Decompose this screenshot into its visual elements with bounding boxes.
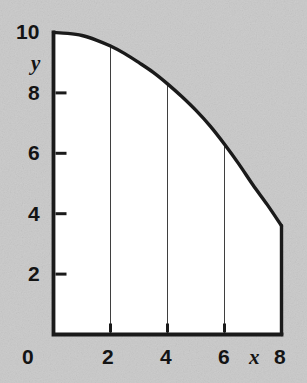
x-tick-label-6: 6 xyxy=(218,346,230,367)
x-tick-label-4: 4 xyxy=(160,346,172,367)
y-tick-label-10: 10 xyxy=(16,21,39,42)
y-tick-label-8: 8 xyxy=(28,82,40,103)
y-axis-label: y xyxy=(31,53,40,74)
x-axis-label: x xyxy=(249,347,260,368)
x-tick-label-2: 2 xyxy=(102,346,114,367)
y-tick-label-4: 4 xyxy=(28,203,40,224)
y-tick-label-6: 6 xyxy=(28,142,40,163)
origin-label: 0 xyxy=(22,346,34,367)
y-tick-label-2: 2 xyxy=(28,263,40,284)
x-tick-label-8: 8 xyxy=(274,346,286,367)
